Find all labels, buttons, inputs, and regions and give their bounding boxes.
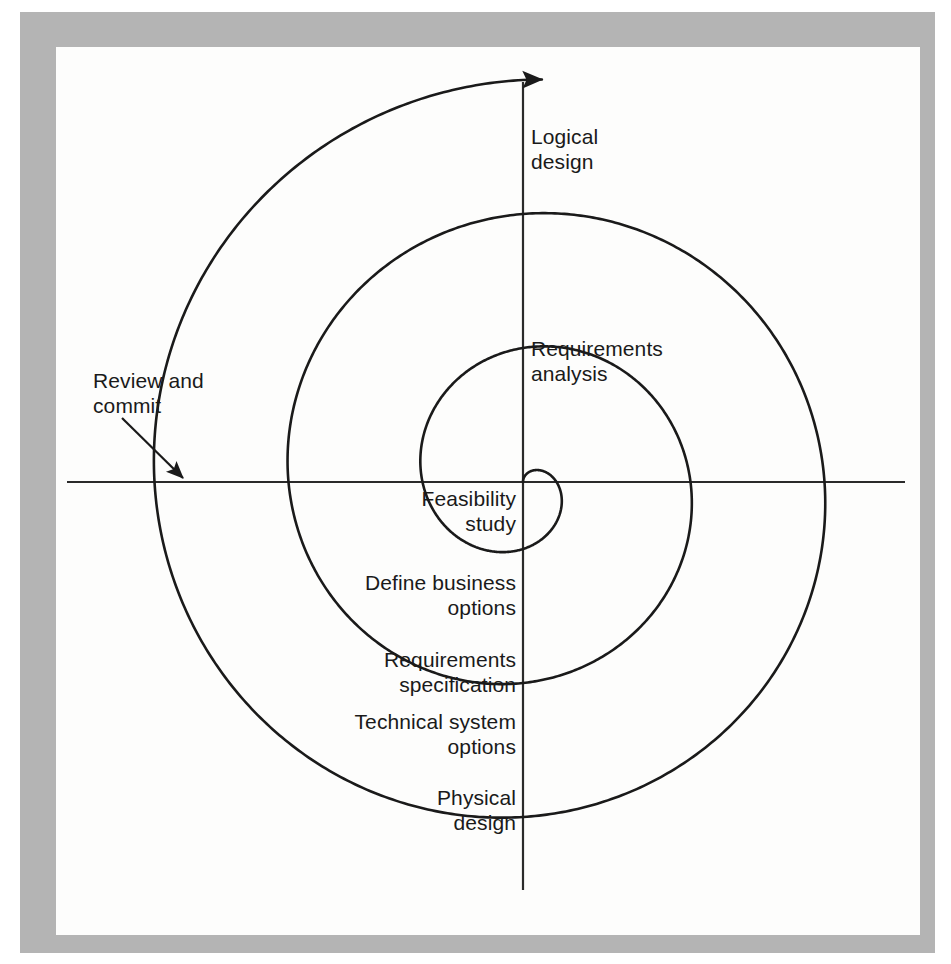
label-define-business-options: Define business options <box>276 570 516 620</box>
label-feasibility-study: Feasibility study <box>316 486 516 536</box>
label-logical-design: Logical design <box>531 124 598 174</box>
figure-page: Logical design Requirements analysis Fea… <box>0 0 951 964</box>
label-requirements-specification: Requirements specification <box>256 647 516 697</box>
label-review-and-commit: Review and commit <box>93 368 204 418</box>
spiral-curve <box>154 79 825 817</box>
label-requirements-analysis: Requirements analysis <box>531 336 663 386</box>
label-physical-design: Physical design <box>296 785 516 835</box>
label-technical-system-options: Technical system options <box>256 709 516 759</box>
review-and-commit-arrow <box>122 418 183 478</box>
